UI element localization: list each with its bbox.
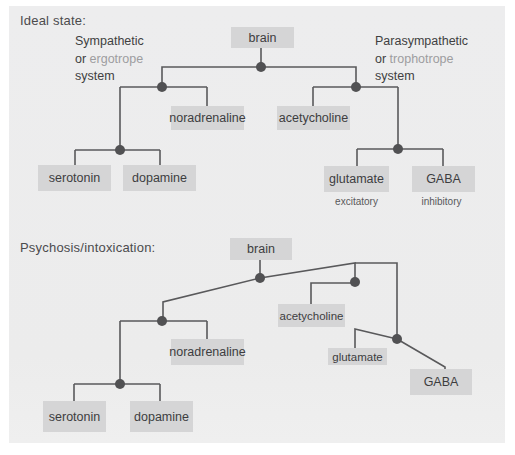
parasympathetic-line2: or trophotrope [375,51,468,69]
psychosis-heading: Psychosis/intoxication: [20,240,155,255]
trophotrope-term: trophotrope [390,52,454,66]
ergotrope-term: ergotrope [90,52,144,66]
psychosis-gaba-box: GABA [410,369,472,395]
psychosis-brain-box: brain [230,238,292,260]
parasympathetic-system-label: Parasympathetic or trophotrope system [375,33,468,86]
parasympathetic-line3: system [375,68,468,86]
figure: Ideal state: Sympathetic or ergotrope sy… [0,0,515,455]
ideal-noradrenaline-box: noradrenaline [171,106,244,130]
psychosis-serotonin-box: serotonin [43,401,106,432]
psychosis-dopamine-box: dopamine [130,401,193,432]
sympathetic-system-label: Sympathetic or ergotrope system [75,33,144,86]
excitatory-note: excitatory [324,196,389,207]
ideal-serotonin-box: serotonin [38,165,111,191]
sympathetic-line1: Sympathetic [75,33,144,51]
psychosis-noradrenaline-box: noradrenaline [171,339,244,365]
sympathetic-line3: system [75,68,144,86]
psychosis-glutamate-box: glutamate [328,348,387,365]
psychosis-acetycholine-box: acetycholine [278,304,345,327]
sympathetic-line2: or ergotrope [75,51,144,69]
ideal-brain-box: brain [231,27,294,48]
ideal-gaba-box: GABA [412,166,475,192]
parasympathetic-line1: Parasympathetic [375,33,468,51]
ideal-acetycholine-box: acetycholine [277,106,350,130]
ideal-dopamine-box: dopamine [123,165,196,191]
ideal-glutamate-box: glutamate [324,166,389,192]
ideal-state-heading: Ideal state: [20,13,86,28]
inhibitory-note: inhibitory [410,196,473,207]
